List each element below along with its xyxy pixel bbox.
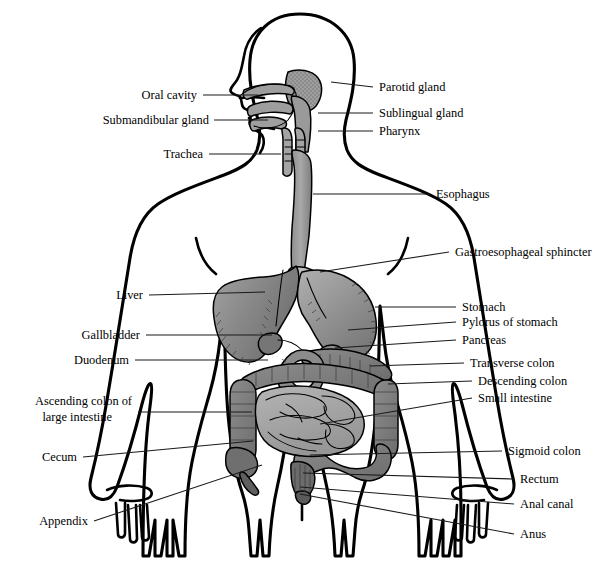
label-ascending-colon-line2: large intestine <box>42 410 112 424</box>
label-small-intestine: Small intestine <box>478 391 552 405</box>
label-stomach: Stomach <box>462 300 506 314</box>
label-descending-colon: Descending colon <box>478 374 567 388</box>
label-duodenum: Duodenum <box>74 353 129 367</box>
label-rectum: Rectum <box>520 472 559 486</box>
label-parotid-gland: Parotid gland <box>379 80 446 94</box>
label-gallbladder: Gallbladder <box>82 328 141 342</box>
label-submandibular-gland: Submandibular gland <box>103 113 210 127</box>
diagram-canvas: Oral cavitySubmandibular glandTracheaLiv… <box>0 0 601 567</box>
label-pylorus-of-stomach: Pylorus of stomach <box>462 315 558 329</box>
label-liver: Liver <box>116 288 144 302</box>
label-gastroesophageal-sphincter: Gastroesophageal sphincter <box>455 245 592 259</box>
label-ascending-colon: Ascending colon of <box>35 394 133 408</box>
label-appendix: Appendix <box>39 514 89 528</box>
label-esophagus: Esophagus <box>436 187 490 201</box>
label-trachea: Trachea <box>164 147 204 161</box>
label-pancreas: Pancreas <box>462 333 506 347</box>
label-sublingual-gland: Sublingual gland <box>379 106 464 120</box>
label-pharynx: Pharynx <box>379 124 421 138</box>
digestive-system-diagram: Oral cavitySubmandibular glandTracheaLiv… <box>0 0 601 567</box>
label-sigmoid-colon: Sigmoid colon <box>508 444 581 458</box>
label-anus: Anus <box>520 527 546 541</box>
label-cecum: Cecum <box>42 450 77 464</box>
label-oral-cavity: Oral cavity <box>142 88 198 102</box>
rectum-organ <box>291 461 315 504</box>
label-anal-canal: Anal canal <box>520 497 574 511</box>
label-transverse-colon: Transverse colon <box>470 356 555 370</box>
